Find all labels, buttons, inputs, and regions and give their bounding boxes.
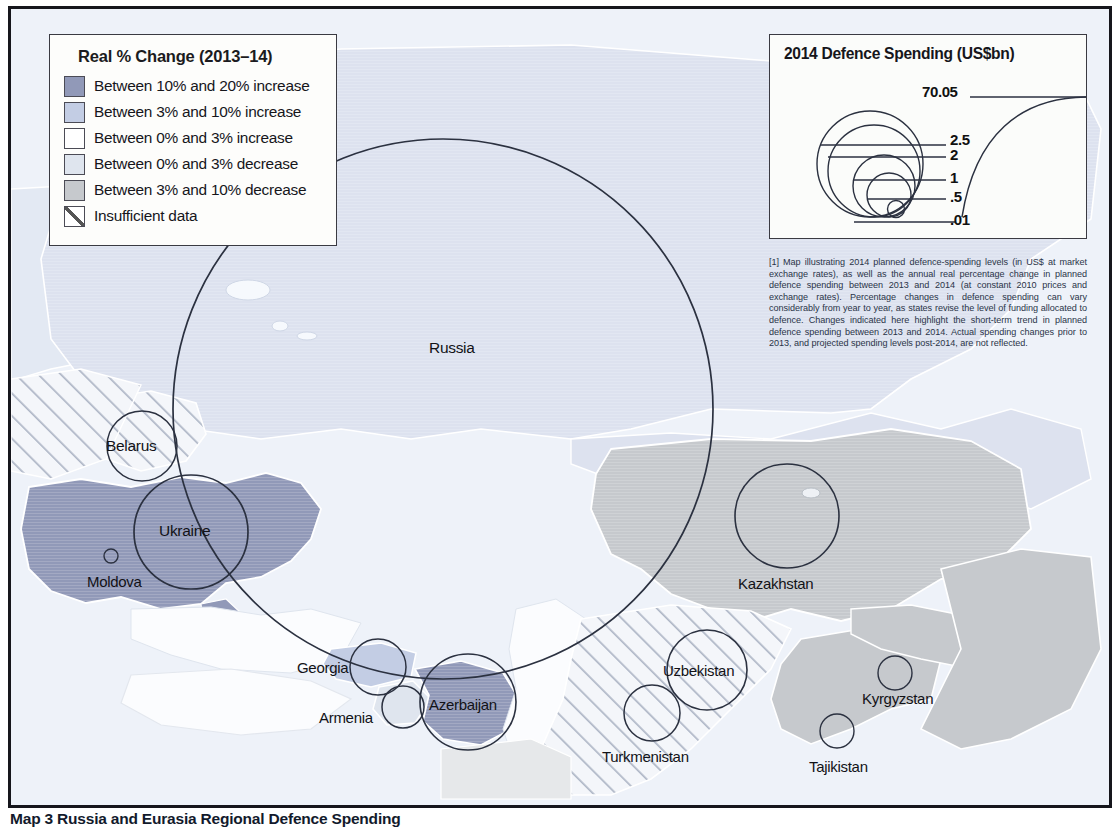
legend-item-0-3-decrease: Between 0% and 3% decrease (64, 151, 324, 177)
label-ukraine: Ukraine (159, 522, 210, 540)
label-russia: Russia (429, 339, 475, 357)
legend-item-3-10-decrease: Between 3% and 10% decrease (64, 177, 324, 203)
map-footnote: [1] Map illustrating 2014 planned defenc… (769, 257, 1087, 350)
map-caption: Map 3 Russia and Eurasia Regional Defenc… (10, 810, 401, 828)
label-uzbekistan: Uzbekistan (663, 662, 734, 679)
label-georgia: Georgia (297, 659, 348, 676)
legend-label-3-10-decrease: Between 3% and 10% decrease (94, 181, 306, 199)
label-belarus: Belarus (106, 437, 156, 455)
legend-spending-bubbles (770, 35, 1087, 239)
label-armenia: Armenia (319, 709, 373, 726)
legend-swatch-0-3-decrease (64, 154, 85, 175)
legend-spending-tick-0-01: .01 (950, 211, 970, 228)
legend-item-10-20-increase: Between 10% and 20% increase (64, 73, 324, 99)
legend-swatch-0-3-increase (64, 128, 85, 149)
legend-spending-tick-70: 70.05 (922, 83, 958, 100)
legend-item-3-10-increase: Between 3% and 10% increase (64, 99, 324, 125)
label-azerbaijan: Azerbaijan (429, 696, 497, 713)
legend-label-0-3-increase: Between 0% and 3% increase (94, 129, 293, 147)
legend-change-title: Real % Change (2013–14) (78, 47, 324, 66)
label-turkmenistan: Turkmenistan (602, 748, 689, 765)
legend-swatch-3-10-increase (64, 102, 85, 123)
map-frame: Russia Belarus Ukraine Moldova Georgia A… (8, 6, 1112, 808)
label-kazakhstan: Kazakhstan (738, 575, 813, 592)
legend-defence-spending: 2014 Defence Spending (US$bn) 70.05 (769, 34, 1087, 239)
label-tajikistan: Tajikistan (809, 758, 868, 775)
legend-swatch-3-10-decrease (64, 180, 85, 201)
legend-swatch-10-20-increase (64, 76, 85, 97)
label-kyrgyzstan: Kyrgyzstan (862, 690, 933, 707)
legend-label-10-20-increase: Between 10% and 20% increase (94, 77, 309, 95)
legend-label-3-10-increase: Between 3% and 10% increase (94, 103, 301, 121)
legend-swatch-insufficient-data (64, 206, 85, 227)
legend-spending-tick-2: 2 (950, 146, 958, 163)
legend-label-0-3-decrease: Between 0% and 3% decrease (94, 155, 298, 173)
legend-spending-title: 2014 Defence Spending (US$bn) (784, 45, 1014, 63)
legend-label-insufficient-data: Insufficient data (94, 207, 197, 225)
legend-real-percent-change: Real % Change (2013–14) Between 10% and … (49, 34, 337, 246)
legend-item-0-3-increase: Between 0% and 3% increase (64, 125, 324, 151)
label-moldova: Moldova (87, 573, 142, 590)
legend-spending-tick-0-5: .5 (950, 188, 962, 205)
legend-spending-tick-1: 1 (950, 169, 958, 186)
legend-item-insufficient-data: Insufficient data (64, 203, 324, 229)
